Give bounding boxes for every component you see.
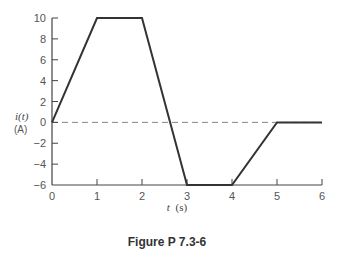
x-axis-unit: (s)	[176, 201, 188, 214]
y-tick-label: 6	[40, 54, 46, 66]
y-tick-label: −6	[33, 179, 46, 191]
current-waveform-chart: 1086420−2−4−60123456 i(t) (A) t (s) Figu…	[0, 0, 337, 260]
x-tick-label: 1	[94, 190, 100, 202]
y-tick-label: 4	[40, 75, 46, 87]
x-tick-label: 6	[319, 190, 325, 202]
figure-caption: Figure P 7.3-6	[128, 235, 207, 249]
y-tick-label: −2	[33, 137, 46, 149]
y-tick-label: 10	[34, 12, 46, 24]
x-tick-label: 0	[49, 190, 55, 202]
y-axis-label: i(t)	[15, 110, 29, 123]
y-axis-unit: (A)	[14, 124, 27, 135]
x-axis-label: t (s)	[167, 201, 188, 214]
x-tick-label: 4	[229, 190, 235, 202]
y-tick-label: 0	[40, 116, 46, 128]
y-tick-label: 8	[40, 33, 46, 45]
x-axis-var: t	[167, 201, 171, 213]
series-line-i-t	[52, 18, 322, 185]
axes	[52, 18, 322, 185]
x-tick-label: 2	[139, 190, 145, 202]
y-tick-label: −4	[33, 158, 46, 170]
y-tick-label: 2	[40, 96, 46, 108]
series	[52, 18, 322, 185]
ticks: 1086420−2−4−60123456	[33, 12, 325, 202]
x-tick-label: 5	[274, 190, 280, 202]
